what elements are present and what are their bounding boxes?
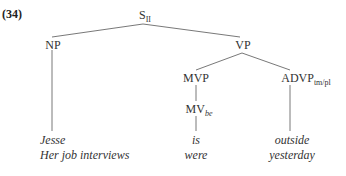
edge-s-np (52, 24, 143, 37)
node-mv-subscript: be (205, 109, 213, 118)
node-mv: MVbe (186, 102, 213, 116)
edge-vp-advp (242, 53, 290, 70)
node-mvp: MVP (183, 71, 209, 85)
node-vp-label: VP (235, 38, 250, 52)
node-vp: VP (235, 38, 250, 52)
edge-vp-mvp (196, 53, 242, 70)
node-np-label: NP (45, 38, 60, 52)
leaf-mv-1: is (192, 133, 200, 147)
node-mv-label: MV (186, 102, 205, 116)
node-advp: ADVPtm/pl (281, 71, 331, 85)
node-advp-label: ADVP (281, 71, 314, 85)
leaf-advp-2: yesterday (269, 148, 315, 162)
node-s: SII (139, 8, 151, 22)
leaf-np-1: Jesse (40, 133, 65, 147)
leaf-np-2: Her job interviews (40, 148, 129, 162)
edge-s-vp (143, 24, 240, 37)
node-s-subscript: II (146, 15, 151, 24)
node-mvp-label: MVP (183, 71, 209, 85)
leaf-advp-1: outside (275, 133, 310, 147)
node-np: NP (45, 38, 60, 52)
node-advp-subscript: tm/pl (314, 78, 331, 87)
node-s-label: S (139, 8, 146, 22)
leaf-mv-2: were (185, 148, 208, 162)
